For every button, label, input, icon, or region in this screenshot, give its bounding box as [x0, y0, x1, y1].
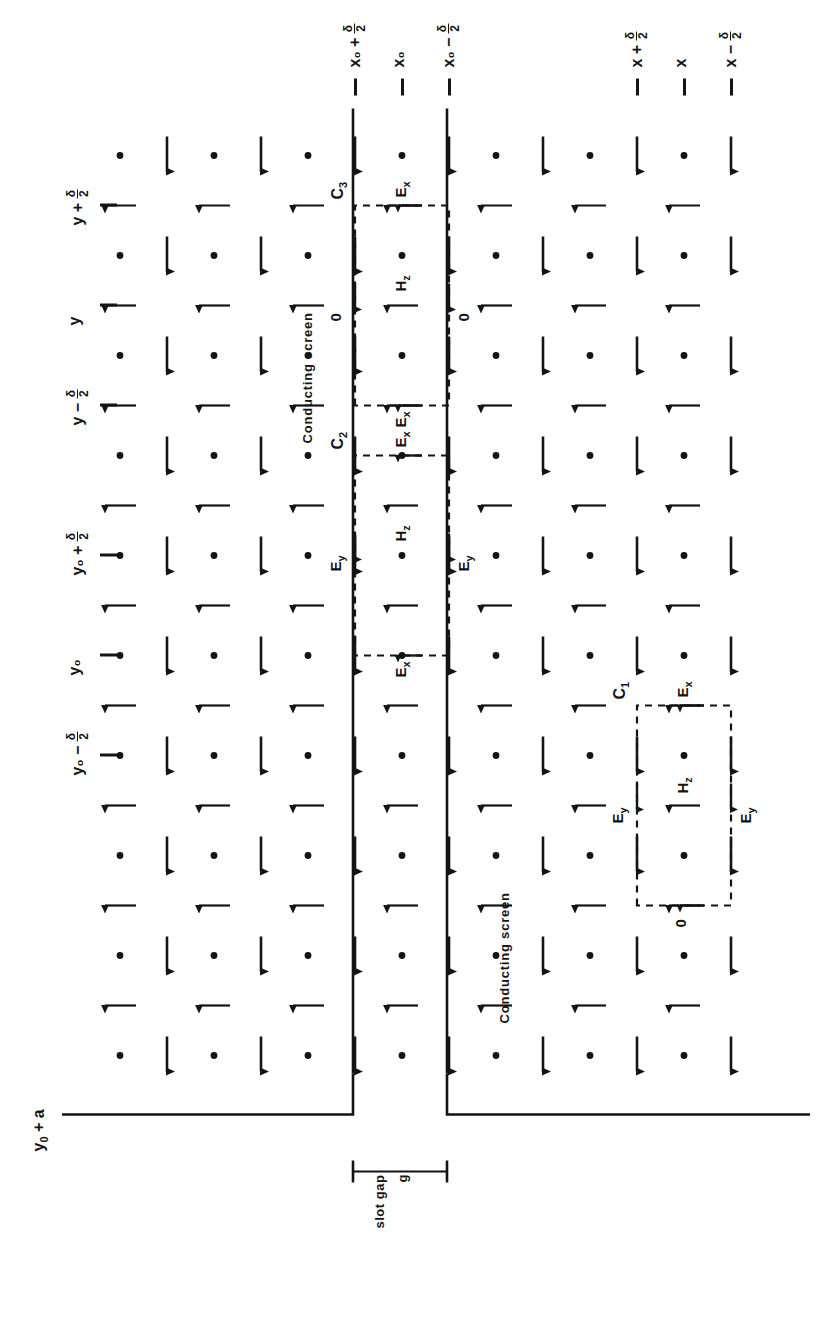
x0-axis-tick	[354, 78, 357, 95]
y-axis-tick-label: y₀ + δ2	[66, 531, 91, 575]
field-label-zero-c3-top: 0	[327, 313, 344, 321]
conducting-screen-label-upper: Conducting screen	[300, 312, 315, 443]
field-label-ex-c1-right: Ex	[674, 681, 694, 697]
x0-axis-tick-label: x₀ − δ2	[437, 23, 462, 67]
y-axis-tick	[100, 204, 117, 207]
x-axis-tick-label: x	[672, 58, 690, 67]
conducting-screen-label-lower: Conducting screen	[497, 892, 512, 1023]
y-axis-tick-label: y₀	[66, 659, 84, 675]
boundary-label-y0-plus-a: y0 + a	[30, 1109, 50, 1151]
field-label-zero-c1-left: 0	[672, 919, 689, 927]
x-axis-tick	[636, 78, 639, 95]
y-axis-tick-label: y₀ − δ2	[66, 731, 91, 775]
x-axis-tick-label: x − δ2	[719, 31, 744, 67]
field-label-ey-c2-top: Ey	[327, 555, 347, 571]
figure-canvas: Conducting screenConducting screenslot g…	[0, 0, 838, 1323]
field-label-hz-c3-center: Hz	[392, 275, 412, 291]
x0-axis-tick-label: x₀ + δ2	[343, 23, 368, 67]
field-label-ex-c2-left: Ex	[392, 661, 412, 677]
field-label-ey-c1-top: Ey	[609, 807, 629, 823]
contour-label-c1: C1	[611, 681, 631, 699]
field-label-ey-c2-bottom: Ey	[455, 555, 475, 571]
x0-axis-tick	[401, 78, 404, 95]
x-axis-tick	[730, 78, 733, 95]
field-label-ey-c1-bottom: Ey	[737, 807, 757, 823]
slot-gap-symbol: g	[395, 1174, 410, 1182]
y-axis-tick-label: y	[66, 316, 84, 325]
y-axis-tick	[100, 554, 117, 557]
field-label-ex-c3-left: Ex	[392, 411, 412, 427]
y-axis-tick	[100, 754, 117, 757]
field-label-hz-c2-center: Hz	[392, 525, 412, 541]
y-axis-tick-label: y − δ2	[66, 389, 91, 425]
x0-axis-tick	[448, 78, 451, 95]
slot-gap-label: slot gap	[372, 1174, 387, 1228]
line-art-layer	[0, 0, 838, 1323]
x-axis-tick	[683, 78, 686, 95]
y-axis-tick	[100, 304, 117, 307]
field-label-ex-c2-right: Ex	[392, 431, 412, 447]
field-label-hz-c1-center: Hz	[674, 777, 694, 793]
y-axis-tick-label: y + δ2	[66, 189, 91, 225]
y-axis-tick	[100, 404, 117, 407]
contour-label-c2: C2	[329, 431, 349, 449]
y-axis-tick	[100, 654, 117, 657]
x0-axis-tick-label: x₀	[390, 51, 408, 67]
x-axis-tick-label: x + δ2	[625, 31, 650, 67]
field-label-zero-c3-bottom: 0	[455, 313, 472, 321]
contour-label-c3: C3	[329, 181, 349, 199]
field-label-ex-c3-right: Ex	[392, 181, 412, 197]
